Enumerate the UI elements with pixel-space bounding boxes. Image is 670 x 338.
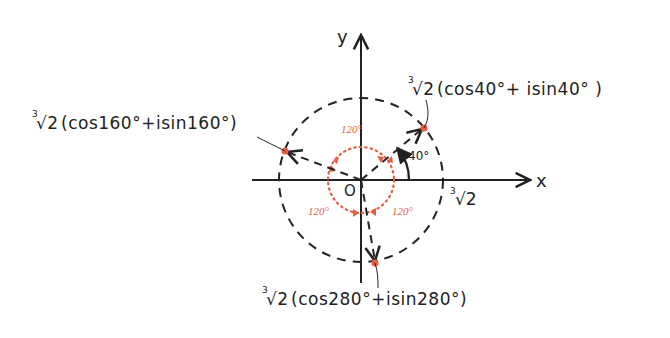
y-axis-label: y (337, 26, 348, 47)
separation-label-top: 120° (341, 123, 363, 135)
svg-text:√2: √2 (266, 289, 289, 309)
root-label-280: 3 √2 (cos280°+isin280°) (262, 285, 467, 309)
svg-text:(cos280°+isin280°): (cos280°+isin280°) (291, 289, 467, 309)
origin-label: O (344, 182, 356, 200)
angle-label-40: 40° (408, 149, 429, 163)
separation-label-bottom-right: 120° (392, 205, 414, 217)
complex-plane-diagram: x y O 40° 120° 120° 120° 3 √2 3 (0, 0, 670, 338)
svg-text:√2: √2 (36, 113, 59, 133)
separation-label-bottom-left: 120° (308, 205, 330, 217)
root-label-40: 3 √2 (cos40°+ isin40° ) (408, 75, 602, 99)
svg-text:√2: √2 (455, 189, 477, 209)
svg-text:(cos40°+ isin40° ): (cos40°+ isin40° ) (437, 79, 602, 99)
x-axis-label: x (536, 170, 547, 191)
svg-text:√2: √2 (412, 79, 435, 99)
svg-text:(cos160°+isin160°): (cos160°+isin160°) (61, 113, 237, 133)
x-intercept-label: 3 √2 (450, 186, 477, 209)
root-label-160: 3 √2 (cos160°+isin160°) (32, 109, 237, 133)
